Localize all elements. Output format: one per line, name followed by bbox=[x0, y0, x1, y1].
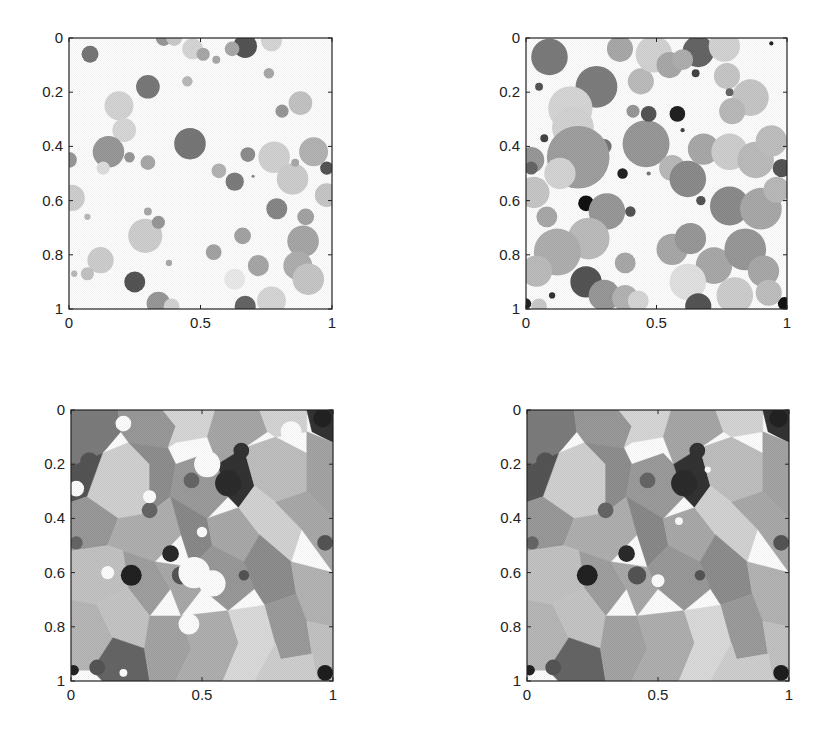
y-tick-label: 1 bbox=[512, 300, 520, 317]
figure: 00.20.40.60.8100.51 00.20.40.60.8100.51 … bbox=[0, 0, 821, 734]
y-tick-label: 0 bbox=[57, 401, 65, 418]
x-tick-label: 1 bbox=[328, 314, 336, 331]
y-tick-label: 0.2 bbox=[500, 455, 521, 472]
y-tick-label: 0.6 bbox=[44, 564, 65, 581]
x-tick-label: 1 bbox=[785, 686, 793, 703]
x-tick-label: 0 bbox=[67, 686, 75, 703]
y-tick-label: 0.4 bbox=[500, 509, 521, 526]
y-tick-label: 0 bbox=[55, 29, 63, 46]
panel-final-microstructure: 00.20.40.60.8100.51 bbox=[500, 401, 793, 703]
y-tick-label: 0 bbox=[513, 401, 521, 418]
plot-area bbox=[518, 30, 791, 319]
x-tick-label: 0.5 bbox=[648, 686, 669, 703]
panel-growth: 00.20.40.60.8100.51 bbox=[499, 29, 791, 331]
y-tick-label: 0.2 bbox=[42, 83, 63, 100]
x-tick-label: 0 bbox=[65, 314, 73, 331]
y-tick-label: 0.6 bbox=[500, 564, 521, 581]
plot-area bbox=[524, 409, 789, 681]
y-tick-label: 1 bbox=[55, 300, 63, 317]
y-tick-label: 0.8 bbox=[499, 246, 520, 263]
x-tick-label: 0 bbox=[523, 686, 531, 703]
x-tick-label: 0.5 bbox=[646, 314, 667, 331]
y-tick-label: 0.4 bbox=[44, 509, 65, 526]
y-tick-label: 0.6 bbox=[499, 192, 520, 209]
plot-area bbox=[68, 409, 333, 681]
y-tick-label: 0.8 bbox=[500, 618, 521, 635]
y-tick-label: 0.8 bbox=[42, 246, 63, 263]
plot-area bbox=[58, 30, 338, 317]
x-tick-label: 0 bbox=[522, 314, 530, 331]
y-tick-label: 1 bbox=[57, 672, 65, 689]
panel-nucleation: 00.20.40.60.8100.51 bbox=[42, 29, 338, 331]
y-tick-label: 0.2 bbox=[499, 83, 520, 100]
y-tick-label: 1 bbox=[513, 672, 521, 689]
x-tick-label: 0.5 bbox=[192, 686, 213, 703]
y-tick-label: 0.2 bbox=[44, 455, 65, 472]
y-tick-label: 0.8 bbox=[44, 618, 65, 635]
y-tick-label: 0.4 bbox=[499, 137, 520, 154]
x-tick-label: 1 bbox=[783, 314, 791, 331]
x-tick-label: 0.5 bbox=[190, 314, 211, 331]
y-tick-label: 0.6 bbox=[42, 192, 63, 209]
y-tick-label: 0 bbox=[512, 29, 520, 46]
x-tick-label: 1 bbox=[329, 686, 337, 703]
y-tick-label: 0.4 bbox=[42, 137, 63, 154]
panel-impingement: 00.20.40.60.8100.51 bbox=[44, 401, 337, 703]
